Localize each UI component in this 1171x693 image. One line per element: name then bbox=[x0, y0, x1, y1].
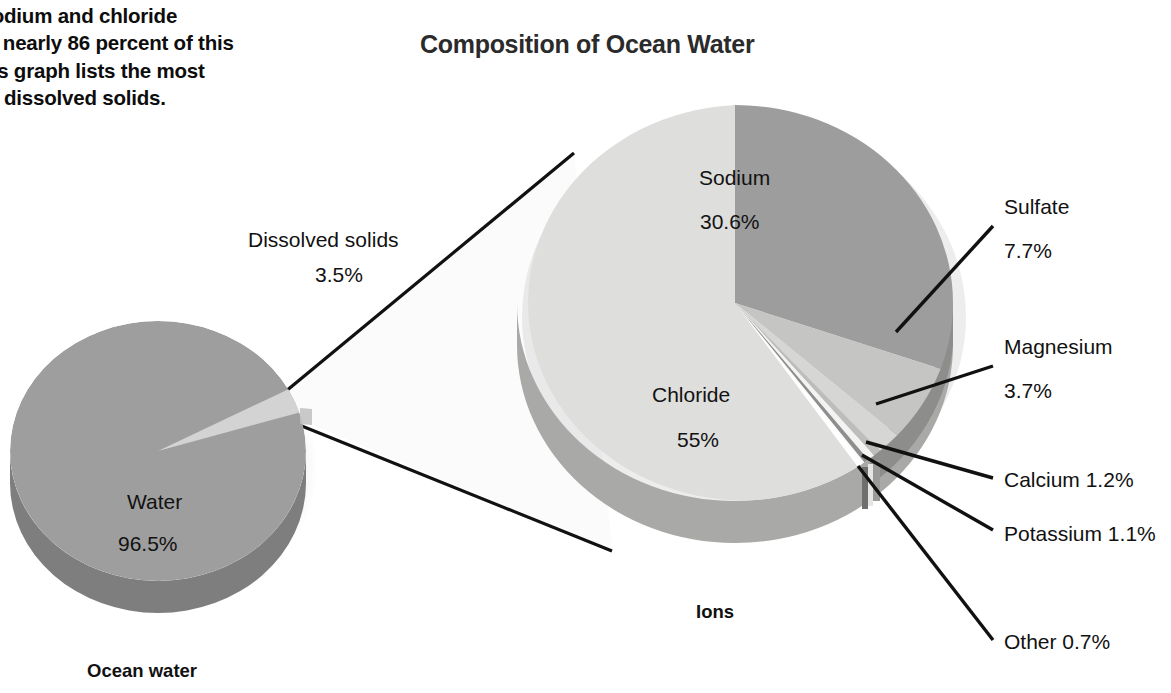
label-water-name: Water bbox=[127, 489, 182, 515]
label-sulfate-percent: 7.7% bbox=[1004, 238, 1052, 264]
label-chloride-percent: 55% bbox=[677, 427, 719, 453]
caption-line-4: dant dissolved solids. bbox=[0, 84, 426, 111]
label-water-percent: 96.5% bbox=[118, 531, 178, 557]
label-sulfate-name: Sulfate bbox=[1004, 194, 1069, 220]
label-other: Other 0.7% bbox=[1004, 629, 1110, 655]
label-dissolved-solids-percent: 3.5% bbox=[315, 262, 363, 288]
label-calcium: Calcium 1.2% bbox=[1004, 467, 1134, 493]
figure-root: s. Sodium and chloride e up nearly 86 pe… bbox=[0, 0, 1171, 693]
label-sodium-name: Sodium bbox=[699, 165, 770, 191]
small-pie-sliver-side bbox=[300, 408, 312, 425]
caption-line-1: s. Sodium and chloride bbox=[0, 2, 426, 29]
label-potassium: Potassium 1.1% bbox=[1004, 521, 1156, 547]
chart-title: Composition of Ocean Water bbox=[420, 29, 754, 61]
caption-line-2: e up nearly 86 percent of this bbox=[0, 29, 426, 56]
large-pie-footer-label: Ions bbox=[696, 600, 734, 623]
label-magnesium-name: Magnesium bbox=[1004, 334, 1113, 360]
caption-line-3: . This graph lists the most bbox=[0, 57, 426, 84]
label-sodium-percent: 30.6% bbox=[700, 209, 760, 235]
label-dissolved-solids-name: Dissolved solids bbox=[248, 227, 399, 253]
small-pie-footer-label: Ocean water bbox=[87, 659, 197, 682]
label-chloride-name: Chloride bbox=[652, 382, 730, 408]
figure-caption: s. Sodium and chloride e up nearly 86 pe… bbox=[0, 2, 426, 111]
small-pie-ocean-water bbox=[10, 321, 318, 613]
leader-line-potassium bbox=[862, 455, 993, 530]
label-magnesium-percent: 3.7% bbox=[1004, 378, 1052, 404]
